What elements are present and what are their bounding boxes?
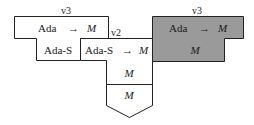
right-block: v3 Ada → M M [153, 5, 244, 62]
right-block-result: M [217, 22, 228, 34]
right-block-slot-type: M [189, 44, 200, 56]
right-block-version-label: v3 [192, 5, 202, 16]
left-block-slot-type: Ada-S [44, 44, 72, 56]
middle-stack-item-1: M [123, 67, 134, 79]
right-block-arrow: → [199, 22, 210, 34]
middle-block: v2 Ada-S → M M M [81, 27, 153, 118]
left-block-input-type: Ada [38, 22, 56, 34]
middle-block-arrow: → [122, 44, 133, 56]
left-block-arrow: → [68, 22, 79, 34]
right-block-input-type: Ada [169, 22, 187, 34]
type-composition-diagram: v3 Ada → M Ada-S v2 Ada-S → M M M v3 Ada… [0, 0, 254, 125]
middle-stack-item-2: M [123, 89, 134, 101]
middle-block-result: M [138, 44, 149, 56]
middle-block-input-type: Ada-S [85, 44, 113, 56]
left-block-version-label: v3 [61, 5, 71, 16]
middle-block-version-label: v2 [111, 27, 121, 38]
left-block-result: M [86, 22, 97, 34]
